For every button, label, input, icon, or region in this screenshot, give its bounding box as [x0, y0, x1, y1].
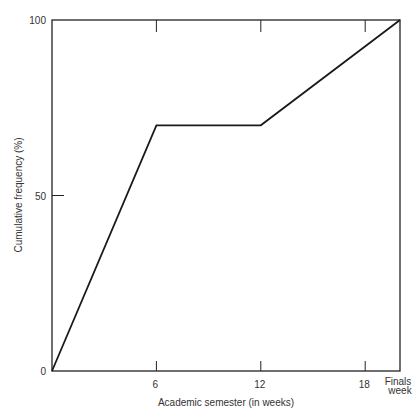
x-end-label: week: [387, 385, 412, 396]
cumulative-frequency-chart: 61218Finalsweek050100 Cumulative frequen…: [0, 0, 419, 420]
x-tick-label: 18: [359, 379, 371, 390]
x-axis-title: Academic semester (in weeks): [158, 397, 294, 408]
x-tick-label: 6: [153, 379, 159, 390]
y-tick-label: 100: [29, 15, 46, 26]
cumulative-frequency-line: [52, 20, 400, 371]
y-tick-label: 50: [35, 191, 47, 202]
plot-border: [52, 20, 400, 371]
y-tick-label: 0: [40, 366, 46, 377]
x-tick-label: 12: [254, 379, 266, 390]
ticks: 61218Finalsweek050100: [29, 15, 412, 396]
plot-frame: [52, 20, 400, 371]
y-axis-title: Cumulative frequency (%): [13, 137, 24, 252]
data-series: [52, 20, 400, 371]
